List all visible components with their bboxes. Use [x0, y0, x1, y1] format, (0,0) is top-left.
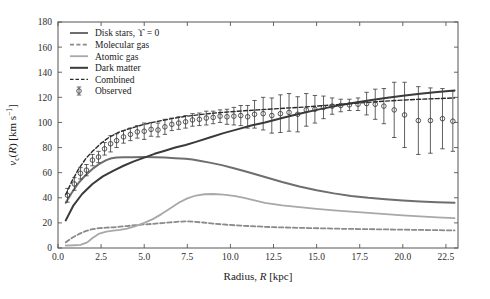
- legend-label-dark_matter: Dark matter: [95, 63, 141, 73]
- rotation-curve-figure: 0.02.55.07.510.012.515.017.520.022.50204…: [0, 0, 490, 299]
- legend-label-disk_stars: Disk stars, ϒ = 0: [95, 28, 159, 38]
- x-tick-label: 7.5: [181, 252, 193, 262]
- x-tick-label: 20.0: [395, 252, 412, 262]
- x-tick-label: 10.0: [222, 252, 239, 262]
- legend: Disk stars, ϒ = 0Molecular gasAtomic gas…: [70, 28, 159, 96]
- x-axis-title: Radius, R [kpc]: [224, 270, 293, 282]
- curve-atomic_gas: [66, 194, 455, 245]
- y-tick-label: 100: [38, 118, 53, 128]
- chart-canvas: 0.02.55.07.510.012.515.017.520.022.50204…: [0, 0, 490, 299]
- x-tick-label: 5.0: [138, 252, 150, 262]
- y-tick-label: 0: [47, 243, 52, 253]
- curve-molecular_gas: [66, 221, 455, 242]
- y-tick-label: 20: [43, 218, 53, 228]
- legend-label-observed: Observed: [95, 86, 132, 96]
- x-tick-label: 2.5: [95, 252, 107, 262]
- curve-combined: [66, 98, 455, 195]
- x-tick-label: 17.5: [351, 252, 368, 262]
- x-tick-label: 22.5: [438, 252, 455, 262]
- y-tick-label: 80: [43, 143, 53, 153]
- x-tick-label: 15.0: [308, 252, 325, 262]
- curve-disk_stars: [66, 157, 455, 203]
- y-tick-label: 40: [43, 193, 53, 203]
- y-tick-label: 180: [38, 17, 53, 27]
- legend-label-molecular_gas: Molecular gas: [95, 40, 149, 50]
- y-axis-title: vc(R) [km s−1]: [5, 104, 21, 165]
- y-tick-label: 120: [38, 93, 53, 103]
- y-tick-label: 60: [43, 168, 53, 178]
- x-tick-label: 12.5: [265, 252, 282, 262]
- legend-label-combined: Combined: [95, 75, 135, 85]
- y-tick-label: 160: [38, 43, 53, 53]
- observed-series: [65, 82, 455, 202]
- legend-label-atomic_gas: Atomic gas: [95, 52, 139, 62]
- y-tick-label: 140: [38, 68, 53, 78]
- x-tick-label: 0.0: [52, 252, 64, 262]
